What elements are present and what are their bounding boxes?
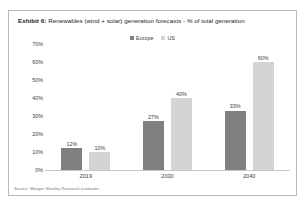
bar-value-label: 60% — [258, 55, 269, 61]
legend-swatch-us — [161, 36, 165, 40]
bar-value-label: 33% — [230, 103, 241, 109]
y-axis-tick: 60% — [32, 59, 43, 65]
bar-value-label: 10% — [94, 145, 105, 151]
bar-item[interactable]: 60% — [253, 44, 274, 170]
bar-group: 12%10% — [45, 44, 127, 170]
x-axis-tick: 2030 — [127, 173, 209, 179]
bar[interactable] — [225, 111, 246, 170]
legend-label-europe: Europe — [136, 35, 153, 41]
y-axis-tick: 70% — [32, 41, 43, 47]
y-axis-tick: 10% — [32, 149, 43, 155]
bar-value-label: 12% — [66, 141, 77, 147]
y-axis-tick: 20% — [32, 131, 43, 137]
bar-groups: 12%10%27%40%33%60% — [45, 44, 290, 170]
bar-value-label: 40% — [176, 91, 187, 97]
legend-swatch-europe — [130, 36, 134, 40]
legend-label-us: US — [167, 35, 175, 41]
bar-item[interactable]: 27% — [143, 44, 164, 170]
bar[interactable] — [171, 98, 192, 170]
x-axis-tick: 2040 — [208, 173, 290, 179]
exhibit-panel: Exhibit 6: Renewables (wind + solar) gen… — [8, 10, 297, 196]
legend-entry-us: US — [161, 35, 175, 41]
x-axis-tick: 2019 — [45, 173, 127, 179]
bar-group: 33%60% — [208, 44, 290, 170]
y-axis: 70%60%50%40%30%20%10%0% — [17, 44, 43, 170]
y-axis-tick: 0% — [35, 167, 43, 173]
x-axis-labels: 201920302040 — [45, 173, 290, 179]
exhibit-title-text: Renewables (wind + solar) generation for… — [48, 17, 245, 24]
bar[interactable] — [143, 121, 164, 170]
y-axis-tick: 50% — [32, 77, 43, 83]
exhibit-label: Exhibit 6: — [18, 17, 46, 24]
bar-item[interactable]: 12% — [61, 44, 82, 170]
y-axis-tick: 30% — [32, 113, 43, 119]
y-axis-tick: 40% — [32, 95, 43, 101]
exhibit-title: Exhibit 6: Renewables (wind + solar) gen… — [18, 17, 290, 25]
bar-item[interactable]: 10% — [89, 44, 110, 170]
chart-plot-area: 70%60%50%40%30%20%10%0% 12%10%27%40%33%6… — [9, 44, 298, 196]
bar[interactable] — [89, 152, 110, 170]
bar-value-label: 27% — [148, 114, 159, 120]
bar[interactable] — [253, 62, 274, 170]
bar-item[interactable]: 33% — [225, 44, 246, 170]
source-note: Source: Morgan Stanley Research estimate… — [14, 186, 99, 191]
bar-group: 27%40% — [127, 44, 209, 170]
bar[interactable] — [61, 148, 82, 170]
legend-entry-europe: Europe — [130, 35, 153, 41]
x-axis-baseline — [45, 170, 290, 171]
chart-legend: Europe US — [9, 35, 296, 41]
bar-item[interactable]: 40% — [171, 44, 192, 170]
